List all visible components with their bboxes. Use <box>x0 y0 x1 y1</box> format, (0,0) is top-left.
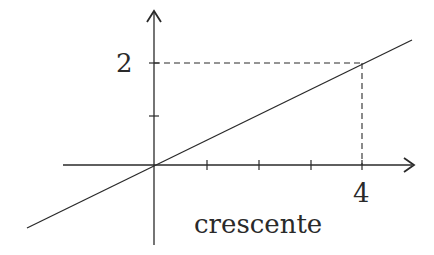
y-tick-label-2: 2 <box>116 50 133 76</box>
x-tick-label-4: 4 <box>353 180 370 206</box>
chart-caption: crescente <box>194 211 322 237</box>
